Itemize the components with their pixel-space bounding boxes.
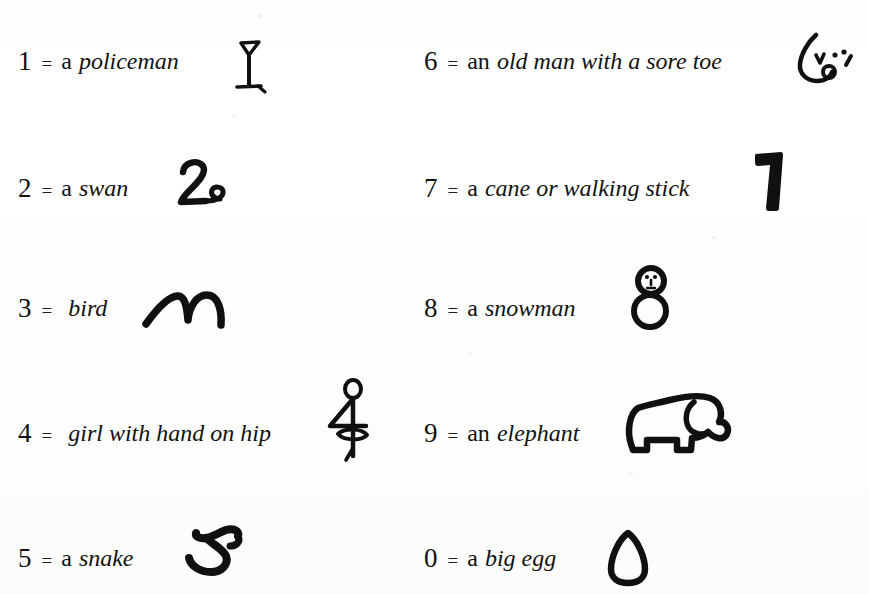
article-9: an (467, 420, 490, 447)
phrase-3: bird (68, 295, 107, 322)
scan-speck (712, 236, 717, 239)
article-2: a (61, 175, 72, 202)
phrase-0: big egg (485, 545, 556, 572)
mnemonic-row-0: 0 = a big egg (424, 545, 556, 572)
equals-sign-2: = (42, 180, 53, 202)
phrase-9: elephant (497, 420, 580, 447)
digit-0: 0 (424, 545, 438, 572)
mnemonic-row-5: 5 = a snake (18, 545, 134, 572)
equals-sign-8: = (448, 300, 459, 322)
scan-speck (628, 472, 633, 475)
digit-7: 7 (424, 175, 438, 202)
swan-doodle (176, 156, 238, 214)
scan-speck (468, 352, 472, 355)
article-0: a (467, 545, 478, 572)
equals-sign-3: = (42, 300, 53, 322)
mnemonic-row-7: 7 = a cane or walking stick (424, 175, 690, 202)
elephant-doodle (624, 388, 736, 458)
equals-sign-0: = (448, 550, 459, 572)
digit-8: 8 (424, 295, 438, 322)
article-5: a (61, 545, 72, 572)
digit-6: 6 (424, 48, 438, 75)
phrase-8: snowman (485, 295, 576, 322)
mnemonic-list: 1 = a policeman 2 = a swan 3 = bird (0, 0, 869, 594)
equals-sign-4: = (42, 425, 53, 447)
equals-sign-1: = (42, 53, 53, 75)
snake-doodle (178, 522, 252, 586)
mnemonic-row-1: 1 = a policeman (18, 48, 179, 75)
mnemonic-row-4: 4 = girl with hand on hip (18, 420, 271, 447)
phrase-4: girl with hand on hip (68, 420, 271, 447)
policeman-doodle (228, 36, 274, 96)
big-egg-doodle (604, 528, 652, 588)
mnemonic-row-9: 9 = an elephant (424, 420, 580, 447)
phrase-7: cane or walking stick (485, 175, 690, 202)
article-8: a (467, 295, 478, 322)
phrase-1: policeman (79, 48, 179, 75)
equals-sign-5: = (42, 550, 53, 572)
digit-1: 1 (18, 48, 32, 75)
equals-sign-7: = (448, 180, 459, 202)
equals-sign-9: = (448, 425, 459, 447)
cane-doodle (748, 148, 794, 214)
mnemonic-row-8: 8 = a snowman (424, 295, 576, 322)
article-6: an (467, 48, 490, 75)
mnemonic-row-3: 3 = bird (18, 295, 107, 322)
scan-speck (258, 14, 263, 18)
phrase-2: swan (79, 175, 128, 202)
snowman-doodle (626, 264, 676, 330)
mnemonic-row-6: 6 = an old man with a sore toe (424, 48, 722, 75)
digit-2: 2 (18, 175, 32, 202)
old-man-with-sore-toe-doodle (794, 30, 866, 92)
equals-sign-6: = (448, 53, 459, 75)
digit-5: 5 (18, 545, 32, 572)
article-1: a (61, 48, 72, 75)
girl-with-hand-on-hip-doodle (322, 378, 374, 462)
scan-speck (232, 114, 236, 117)
article-7: a (467, 175, 478, 202)
mnemonic-row-2: 2 = a swan (18, 175, 128, 202)
digit-9: 9 (424, 420, 438, 447)
bird-doodle (142, 288, 234, 332)
phrase-6: old man with a sore toe (497, 48, 722, 75)
digit-3: 3 (18, 295, 32, 322)
digit-4: 4 (18, 420, 32, 447)
phrase-5: snake (79, 545, 134, 572)
